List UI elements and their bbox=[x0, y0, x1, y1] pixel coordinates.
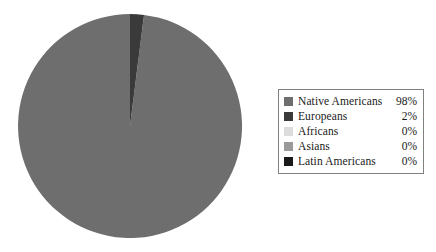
legend-item-label: Native Americans bbox=[298, 94, 389, 109]
legend-item-percent: 98% bbox=[389, 94, 417, 109]
list-item[interactable]: Europeans 2% bbox=[284, 109, 417, 124]
list-item[interactable]: Asians 0% bbox=[284, 139, 417, 154]
legend-item-label: Latin Americans bbox=[298, 154, 389, 169]
list-item[interactable]: Native Americans 98% bbox=[284, 94, 417, 109]
legend-item-label: Europeans bbox=[298, 109, 389, 124]
list-item[interactable]: Latin Americans 0% bbox=[284, 154, 417, 169]
legend-swatch-icon bbox=[284, 127, 293, 136]
legend-item-label: Africans bbox=[298, 124, 389, 139]
legend-item-label: Asians bbox=[298, 139, 389, 154]
legend-swatch-icon bbox=[284, 142, 293, 151]
pie-svg bbox=[0, 0, 262, 252]
pie-chart-figure: Native Americans 98% Europeans 2% Africa… bbox=[0, 0, 436, 252]
legend-item-percent: 2% bbox=[389, 109, 417, 124]
legend-item-percent: 0% bbox=[389, 154, 417, 169]
legend-swatch-icon bbox=[284, 112, 293, 121]
legend-item-percent: 0% bbox=[389, 124, 417, 139]
pie-slices-group bbox=[18, 14, 242, 238]
pie-plot-area bbox=[0, 0, 262, 252]
legend-swatch-icon bbox=[284, 157, 293, 166]
legend-item-percent: 0% bbox=[389, 139, 417, 154]
list-item[interactable]: Africans 0% bbox=[284, 124, 417, 139]
chart-legend: Native Americans 98% Europeans 2% Africa… bbox=[278, 89, 424, 174]
legend-swatch-icon bbox=[284, 97, 293, 106]
